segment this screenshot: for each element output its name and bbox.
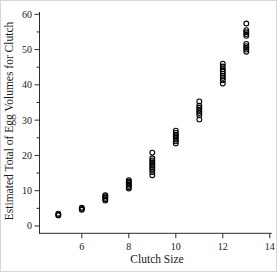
y-tick-label: 50 (22, 44, 32, 55)
x-axis-label: Clutch Size (130, 253, 183, 265)
scatter-plot-canvas: 681012140102030405060 Clutch Size Estima… (1, 1, 277, 272)
x-tick-label: 10 (171, 241, 181, 252)
scatter-point (150, 150, 155, 155)
y-axis-label: Estimated Total of Egg Volumes for Clutc… (3, 21, 16, 220)
x-tick-label: 14 (265, 241, 275, 252)
y-tick-label: 0 (27, 220, 32, 231)
x-tick-label: 12 (218, 241, 228, 252)
data-points (56, 21, 249, 218)
y-tick-label: 40 (22, 79, 32, 90)
y-tick-label: 30 (22, 115, 32, 126)
scatter-point (244, 21, 249, 26)
x-tick-label: 6 (79, 241, 84, 252)
scatter-plot-figure: 681012140102030405060 Clutch Size Estima… (0, 0, 277, 272)
y-tick-label: 10 (22, 185, 32, 196)
y-tick-label: 60 (22, 9, 32, 20)
x-tick-label: 8 (126, 241, 131, 252)
y-tick-label: 20 (22, 150, 32, 161)
